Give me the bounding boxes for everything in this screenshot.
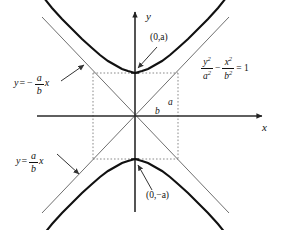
- equation-num2-exponent: 2: [229, 55, 232, 62]
- asymptote-positive-numerator: a: [29, 150, 38, 163]
- asymptote-negative-sign: −: [26, 77, 34, 88]
- asymptote-negative-fraction: a b: [35, 72, 44, 96]
- hyperbola-equation: y2 a2 − x2 b2 = 1: [200, 55, 250, 82]
- vertex-top-label: (0,a): [150, 33, 168, 43]
- asymptote-positive-label: y= a b x: [16, 150, 44, 174]
- hyperbola-diagram-svg: [0, 0, 281, 230]
- asymptote-positive-equals: =: [20, 155, 28, 166]
- asymptote-negative-numerator: a: [35, 72, 44, 85]
- equation-den1-exponent: 2: [208, 69, 211, 76]
- asymptote-negative-equals: =: [18, 77, 26, 88]
- equation-operator: −: [214, 63, 221, 73]
- x-axis-label: x: [262, 122, 267, 133]
- leader-arrows: [57, 47, 157, 190]
- leader-arrow-vertex-bottom: [138, 165, 152, 190]
- hyperbola-figure: y x (0,a) (0,−a) a b y=− a b x y= a b x …: [0, 0, 281, 230]
- semi-axis-b-label: b: [155, 107, 160, 117]
- equation-num2: x2: [222, 55, 234, 69]
- y-axis-label: y: [146, 11, 151, 22]
- asymptote-negative-variable: x: [45, 77, 49, 88]
- asymptote-positive-denominator: b: [29, 163, 38, 175]
- leader-arrow-asymptote-negative: [61, 65, 84, 81]
- equation-den2: b2: [222, 69, 234, 82]
- equation-equals: = 1: [235, 63, 249, 73]
- asymptote-negative-denominator: b: [35, 85, 44, 97]
- asymptote-positive-variable: x: [39, 155, 43, 166]
- asymptote-negative-label: y=− a b x: [14, 72, 49, 96]
- asymptote-positive-fraction: a b: [29, 150, 38, 174]
- equation-den2-exponent: 2: [229, 69, 232, 76]
- equation-second-fraction: x2 b2: [222, 55, 234, 82]
- equation-num1-exponent: 2: [207, 55, 210, 62]
- equation-num1: y2: [201, 55, 213, 69]
- equation-first-fraction: y2 a2: [201, 55, 213, 82]
- semi-axis-a-label: a: [168, 98, 173, 108]
- equation-den1: a2: [201, 69, 213, 82]
- leader-arrow-asymptote-positive: [57, 154, 79, 174]
- vertex-bottom-label: (0,−a): [146, 191, 169, 201]
